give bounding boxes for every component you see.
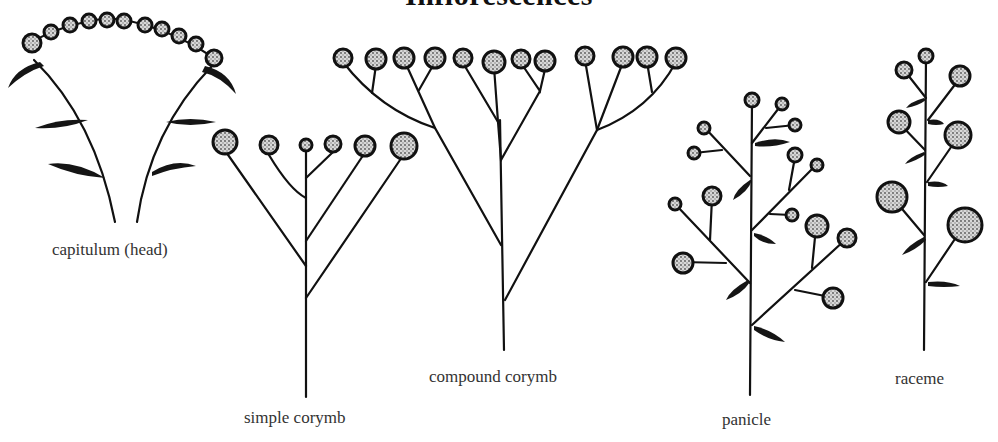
label-simple-corymb: simple corymb <box>244 408 346 428</box>
label-capitulum: capitulum (head) <box>52 240 168 260</box>
capitulum-florets <box>23 13 222 66</box>
raceme-drawing <box>877 49 982 350</box>
panicle-drawing <box>669 93 856 395</box>
capitulum-drawing <box>8 13 236 222</box>
label-raceme: raceme <box>895 369 944 389</box>
simple-corymb-drawing <box>213 130 417 397</box>
label-panicle: panicle <box>722 410 771 430</box>
label-compound-corymb: compound corymb <box>429 367 557 387</box>
compound-corymb-drawing <box>334 47 686 350</box>
